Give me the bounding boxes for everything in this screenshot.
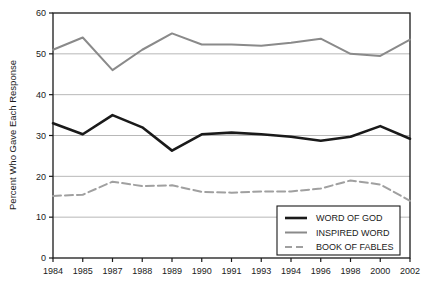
- y-tick-label: 40: [36, 90, 46, 100]
- x-tick-label: 1990: [192, 266, 212, 276]
- x-tick-label: 2000: [370, 266, 390, 276]
- line-chart: Percent Who Gave Each Response 010203040…: [0, 0, 429, 296]
- x-tick-label: 1987: [102, 266, 122, 276]
- x-tick-label: 1994: [281, 266, 301, 276]
- y-tick-label: 20: [36, 172, 46, 182]
- x-tick-label: 1998: [340, 266, 360, 276]
- y-tick-label: 60: [36, 8, 46, 18]
- y-tick-label: 30: [36, 131, 46, 141]
- legend-label-2: BOOK OF FABLES: [316, 242, 394, 252]
- x-tick-label: 1991: [221, 266, 241, 276]
- x-tick-label: 1996: [311, 266, 331, 276]
- x-tick-label: 1993: [251, 266, 271, 276]
- y-axis-title: Percent Who Gave Each Response: [7, 60, 18, 210]
- chart-container: Percent Who Gave Each Response 010203040…: [0, 0, 429, 296]
- x-tick-label: 2002: [400, 266, 420, 276]
- chart-legend: WORD OF GODINSPIRED WORDBOOK OF FABLES: [277, 206, 400, 255]
- y-tick-label: 50: [36, 49, 46, 59]
- x-tick-label: 1988: [132, 266, 152, 276]
- legend-label-0: WORD OF GOD: [316, 213, 383, 223]
- x-tick-label: 1989: [162, 266, 182, 276]
- legend-label-1: INSPIRED WORD: [316, 228, 390, 238]
- x-tick-label: 1984: [43, 266, 63, 276]
- y-tick-label: 0: [41, 253, 46, 263]
- x-tick-label: 1985: [73, 266, 93, 276]
- y-tick-label: 10: [36, 212, 46, 222]
- legend-items: WORD OF GODINSPIRED WORDBOOK OF FABLES: [285, 213, 394, 252]
